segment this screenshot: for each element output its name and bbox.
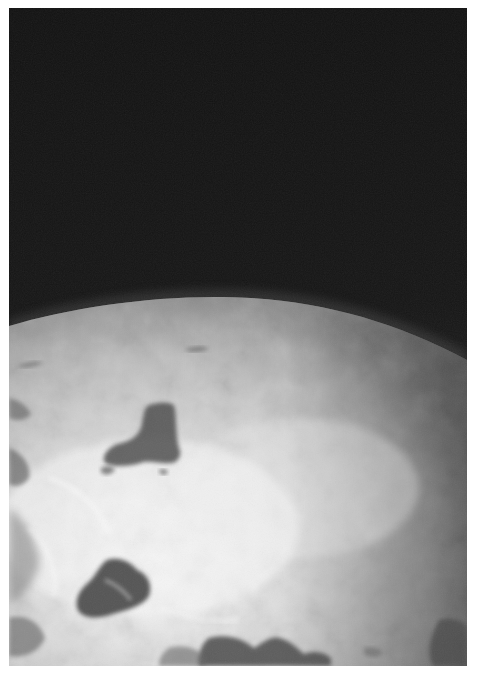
film-grain [9, 8, 467, 666]
page: Earth seen from orbit: curved horizon of… [0, 0, 482, 675]
earth-from-space-photo: Earth seen from orbit: curved horizon of… [9, 8, 467, 666]
photo-canvas [9, 8, 467, 666]
